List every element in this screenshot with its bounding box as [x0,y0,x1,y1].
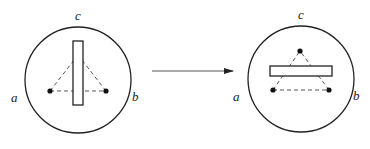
dot-left [47,88,52,93]
dot-left [270,87,275,92]
diagram-canvas: a b c a b c [0,0,370,149]
vertical-bar [73,41,83,105]
horizontal-bar [270,66,332,76]
diagram-svg [0,0,370,149]
before-label-b: b [132,90,139,103]
dot-top [297,48,302,53]
dot-right [103,88,108,93]
after-label-c: c [298,8,304,21]
after-label-b: b [353,89,360,102]
after-panel [248,26,354,132]
after-label-a: a [233,90,240,103]
dot-right [326,87,331,92]
after-circle [248,26,354,132]
before-panel [25,27,131,133]
before-label-a: a [11,91,18,104]
before-label-c: c [75,9,81,22]
